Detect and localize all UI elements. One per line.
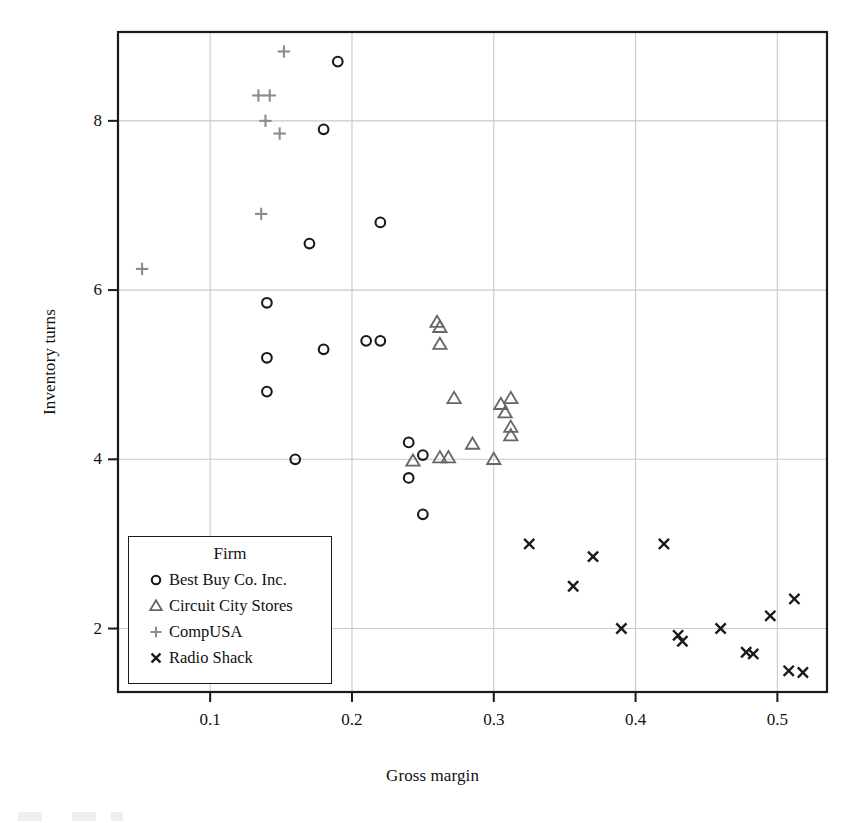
cross-marker bbox=[143, 647, 169, 669]
plus-marker bbox=[264, 89, 276, 101]
plus-marker bbox=[273, 127, 285, 139]
legend-entry: Circuit City Stores bbox=[129, 593, 331, 619]
plus-marker bbox=[255, 208, 267, 220]
legend-entry-label: CompUSA bbox=[169, 622, 242, 642]
x-tick-label: 0.4 bbox=[625, 710, 646, 730]
triangle-marker bbox=[466, 438, 479, 449]
page-caption-fragment bbox=[18, 812, 168, 821]
y-tick-label: 6 bbox=[66, 280, 102, 300]
legend-entry: Best Buy Co. Inc. bbox=[129, 567, 331, 593]
circle-marker bbox=[404, 473, 414, 483]
triangle-marker bbox=[433, 338, 446, 349]
circle-marker bbox=[262, 298, 272, 308]
cross-marker bbox=[152, 654, 161, 663]
scatter-plot-figure: Gross margin Inventory turns 0.10.20.30.… bbox=[0, 0, 865, 823]
plus-marker bbox=[143, 621, 169, 643]
triangle-marker bbox=[447, 392, 460, 403]
circle-marker bbox=[375, 336, 385, 346]
plus-marker bbox=[278, 45, 290, 57]
triangle-marker bbox=[498, 406, 511, 417]
circle-marker bbox=[143, 569, 169, 591]
circle-marker bbox=[319, 124, 329, 134]
cross-marker bbox=[568, 581, 578, 591]
legend-entry-label: Best Buy Co. Inc. bbox=[169, 570, 287, 590]
legend-title: Firm bbox=[129, 544, 331, 564]
cross-marker bbox=[524, 539, 534, 549]
y-tick-label: 4 bbox=[66, 449, 102, 469]
cross-marker bbox=[659, 539, 669, 549]
circle-marker bbox=[319, 344, 329, 354]
cross-marker bbox=[789, 594, 799, 604]
legend-box: Firm Best Buy Co. Inc.Circuit City Store… bbox=[128, 536, 332, 684]
x-tick-label: 0.3 bbox=[483, 710, 504, 730]
triangle-marker bbox=[504, 429, 517, 440]
x-tick-label: 0.1 bbox=[200, 710, 221, 730]
cross-marker bbox=[798, 667, 808, 677]
circle-marker bbox=[305, 239, 315, 249]
triangle-marker bbox=[143, 595, 169, 617]
cross-marker bbox=[765, 611, 775, 621]
plus-marker bbox=[259, 115, 271, 127]
plus-marker bbox=[136, 263, 148, 275]
circle-marker bbox=[262, 353, 272, 363]
plot-canvas bbox=[0, 0, 865, 823]
x-tick-label: 0.2 bbox=[341, 710, 362, 730]
cross-marker bbox=[677, 636, 687, 646]
circle-marker bbox=[404, 438, 414, 448]
circle-marker bbox=[152, 576, 160, 584]
legend-entries: Best Buy Co. Inc.Circuit City StoresComp… bbox=[129, 567, 331, 671]
legend-entry: Radio Shack bbox=[129, 645, 331, 671]
circle-marker bbox=[262, 387, 272, 397]
triangle-marker bbox=[150, 600, 162, 610]
circle-marker bbox=[418, 450, 428, 460]
circle-marker bbox=[375, 218, 385, 228]
legend-entry-label: Circuit City Stores bbox=[169, 596, 293, 616]
x-tick-label: 0.5 bbox=[767, 710, 788, 730]
y-tick-label: 8 bbox=[66, 111, 102, 131]
triangle-marker bbox=[504, 392, 517, 403]
x-axis-title: Gross margin bbox=[0, 766, 865, 786]
circle-marker bbox=[418, 509, 428, 519]
cross-marker bbox=[588, 552, 598, 562]
y-axis-title: Inventory turns bbox=[40, 252, 60, 472]
legend-entry: CompUSA bbox=[129, 619, 331, 645]
circle-marker bbox=[361, 336, 371, 346]
circle-marker bbox=[333, 57, 343, 67]
cross-marker bbox=[784, 666, 794, 676]
legend-entry-label: Radio Shack bbox=[169, 648, 253, 668]
plus-marker bbox=[151, 627, 162, 638]
y-tick-label: 2 bbox=[66, 619, 102, 639]
plus-marker bbox=[252, 89, 264, 101]
cross-marker bbox=[748, 649, 758, 659]
